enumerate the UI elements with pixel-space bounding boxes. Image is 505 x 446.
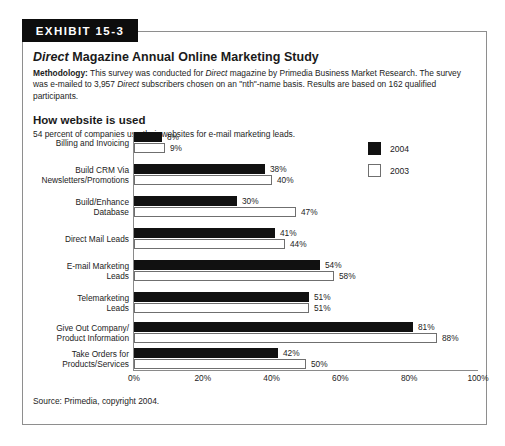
bar-value-label: 30% bbox=[242, 196, 259, 206]
exhibit-banner-label: EXHIBIT 15-3 bbox=[36, 25, 124, 37]
bar-value-label: 42% bbox=[283, 348, 300, 358]
category-label-line: Telemarketing bbox=[0, 293, 129, 303]
bar-2004 bbox=[134, 196, 237, 206]
category-label-line: Build/Enhance bbox=[0, 197, 129, 207]
chart-legend: 20042003 bbox=[368, 142, 409, 186]
study-title-italic: Direct bbox=[33, 50, 69, 64]
category-label-line: Newsletters/Promotions bbox=[0, 175, 129, 185]
category-label-line: Give Out Company/ bbox=[0, 323, 129, 333]
x-tick-label: 20% bbox=[194, 373, 211, 383]
methodology-italic-2: Direct bbox=[117, 79, 139, 89]
bar-row: 41% bbox=[134, 228, 478, 238]
bar-row: 9% bbox=[134, 143, 478, 153]
bar-2003 bbox=[134, 359, 306, 369]
methodology-italic-1: Direct bbox=[206, 68, 228, 78]
bar-2004 bbox=[134, 164, 265, 174]
category-label-line: Leads bbox=[0, 271, 129, 281]
bar-2003 bbox=[134, 271, 334, 281]
category-label-line: Take Orders for bbox=[0, 349, 129, 359]
bar-value-label: 38% bbox=[270, 164, 287, 174]
bar-value-label: 9% bbox=[170, 143, 182, 153]
bar-value-label: 47% bbox=[301, 207, 318, 217]
bar-row: 8% bbox=[134, 132, 478, 142]
bar-row: 88% bbox=[134, 333, 478, 343]
bar-value-label: 44% bbox=[290, 239, 307, 249]
bar-row: 44% bbox=[134, 239, 478, 249]
study-title-rest: Magazine Annual Online Marketing Study bbox=[69, 50, 319, 64]
category-label: Billing and Invoicing bbox=[0, 138, 129, 148]
bar-row: 81% bbox=[134, 322, 478, 332]
section-title: How website is used bbox=[33, 114, 479, 126]
legend-swatch-2004 bbox=[368, 142, 381, 155]
x-axis-line bbox=[133, 370, 478, 371]
bar-row: 38% bbox=[134, 164, 478, 174]
bar-2004 bbox=[134, 292, 309, 302]
methodology-paragraph: Methodology: This survey was conducted f… bbox=[33, 68, 473, 102]
bar-value-label: 51% bbox=[314, 303, 331, 313]
x-axis-ticks: 0%20%40%60%80%100% bbox=[33, 373, 479, 387]
exhibit-header-block: Direct Magazine Annual Online Marketing … bbox=[33, 50, 479, 139]
bar-value-label: 88% bbox=[442, 333, 459, 343]
legend-swatch-2003 bbox=[368, 164, 381, 177]
category-label-line: Product Information bbox=[0, 333, 129, 343]
legend-label: 2003 bbox=[390, 166, 409, 176]
category-label: E-mail MarketingLeads bbox=[0, 261, 129, 281]
source-line: Source: Primedia, copyright 2004. bbox=[33, 396, 159, 406]
study-title: Direct Magazine Annual Online Marketing … bbox=[33, 50, 479, 64]
category-label-line: E-mail Marketing bbox=[0, 261, 129, 271]
category-label-line: Direct Mail Leads bbox=[0, 234, 129, 244]
bar-2003 bbox=[134, 333, 437, 343]
bar-row: 50% bbox=[134, 359, 478, 369]
category-label-line: Database bbox=[0, 207, 129, 217]
category-label: Give Out Company/Product Information bbox=[0, 323, 129, 343]
bar-row: 51% bbox=[134, 303, 478, 313]
bar-2003 bbox=[134, 239, 285, 249]
bar-row: 51% bbox=[134, 292, 478, 302]
legend-item: 2004 bbox=[368, 142, 409, 155]
bar-value-label: 41% bbox=[280, 228, 297, 238]
category-label: TelemarketingLeads bbox=[0, 293, 129, 313]
category-label-line: Leads bbox=[0, 303, 129, 313]
bar-2003 bbox=[134, 207, 296, 217]
bar-row: 54% bbox=[134, 260, 478, 270]
bar-2003 bbox=[134, 143, 165, 153]
bar-chart: Billing and Invoicing8%9%Build CRM ViaNe… bbox=[33, 132, 479, 390]
legend-label: 2004 bbox=[390, 144, 409, 154]
bar-value-label: 81% bbox=[418, 322, 435, 332]
exhibit-banner: EXHIBIT 15-3 bbox=[22, 19, 138, 42]
bar-2003 bbox=[134, 175, 272, 185]
category-label: Take Orders forProducts/Services bbox=[0, 349, 129, 369]
category-label: Build/EnhanceDatabase bbox=[0, 197, 129, 217]
bar-2004 bbox=[134, 348, 278, 358]
bar-2004 bbox=[134, 322, 413, 332]
x-tick-label: 100% bbox=[467, 373, 488, 383]
x-tick-label: 40% bbox=[263, 373, 280, 383]
bar-value-label: 40% bbox=[277, 175, 294, 185]
bar-value-label: 54% bbox=[325, 260, 342, 270]
category-label-line: Products/Services bbox=[0, 359, 129, 369]
bar-row: 47% bbox=[134, 207, 478, 217]
bar-value-label: 8% bbox=[167, 132, 179, 142]
methodology-text-1: This survey was conducted for bbox=[88, 68, 206, 78]
bar-value-label: 50% bbox=[311, 359, 328, 369]
category-label: Build CRM ViaNewsletters/Promotions bbox=[0, 165, 129, 185]
bar-row: 30% bbox=[134, 196, 478, 206]
methodology-label: Methodology: bbox=[33, 68, 88, 78]
x-tick-label: 60% bbox=[332, 373, 349, 383]
bar-row: 58% bbox=[134, 271, 478, 281]
category-label: Direct Mail Leads bbox=[0, 234, 129, 244]
bar-2004 bbox=[134, 260, 320, 270]
bar-2004 bbox=[134, 132, 162, 142]
x-tick-label: 0% bbox=[128, 373, 140, 383]
category-label-line: Build CRM Via bbox=[0, 165, 129, 175]
x-tick-label: 80% bbox=[401, 373, 418, 383]
bar-row: 40% bbox=[134, 175, 478, 185]
category-label-line: Billing and Invoicing bbox=[0, 138, 129, 148]
bar-2004 bbox=[134, 228, 275, 238]
bar-row: 42% bbox=[134, 348, 478, 358]
bar-value-label: 58% bbox=[339, 271, 356, 281]
bar-2003 bbox=[134, 303, 309, 313]
legend-item: 2003 bbox=[368, 164, 409, 177]
bar-value-label: 51% bbox=[314, 292, 331, 302]
